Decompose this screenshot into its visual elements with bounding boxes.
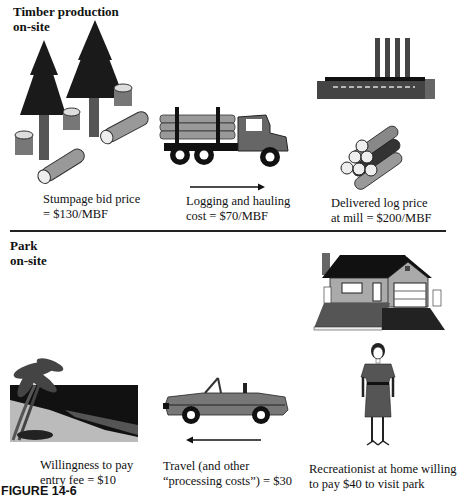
travel-cost-caption: Travel (and other “processing costs”) = … (163, 459, 292, 489)
recreationist-caption: Recreationist at home willing to pay $40… (309, 462, 457, 492)
recreationist-caption-line1: Recreationist at home willing (309, 462, 457, 477)
recreationist-caption-line2: to pay $40 to visit park (309, 477, 457, 492)
house-icon (300, 250, 440, 335)
recreationist-person-icon (355, 342, 405, 448)
stumpage-caption-line1: Stumpage bid price (43, 192, 140, 207)
stumpage-caption-line2: = $130/MBF (43, 207, 140, 222)
log-pile-icon (335, 120, 415, 185)
park-section-title: Park on-site (10, 238, 47, 268)
park-title-line2: on-site (10, 253, 47, 268)
travel-caption-line1: Travel (and other (163, 459, 292, 474)
logging-truck-icon (158, 105, 298, 185)
forest-trees-stumps-logs-illustration (0, 20, 160, 195)
convertible-car-icon (163, 375, 288, 425)
arrow-right-icon (190, 183, 265, 191)
logging-caption: Logging and hauling cost = $70/MBF (186, 194, 290, 224)
logging-caption-line2: cost = $70/MBF (186, 209, 290, 224)
arrow-left-icon (186, 436, 261, 444)
mill-factory-icon (315, 35, 435, 100)
figure-label: FIGURE 14-6 (1, 484, 77, 498)
timber-title-line1: Timber production (13, 4, 119, 19)
willingness-caption-line1: Willingness to pay (40, 458, 133, 473)
logging-caption-line1: Logging and hauling (186, 194, 290, 209)
park-title-line1: Park (10, 238, 47, 253)
delivered-caption-line2: at mill = $200/MBF (331, 211, 431, 226)
delivered-price-caption: Delivered log price at mill = $200/MBF (331, 196, 431, 226)
stumpage-caption: Stumpage bid price = $130/MBF (43, 192, 140, 222)
section-divider (10, 230, 446, 232)
delivered-caption-line1: Delivered log price (331, 196, 431, 211)
travel-caption-line2: “processing costs”) = $30 (163, 474, 292, 489)
park-beach-palm-illustration (5, 355, 140, 445)
